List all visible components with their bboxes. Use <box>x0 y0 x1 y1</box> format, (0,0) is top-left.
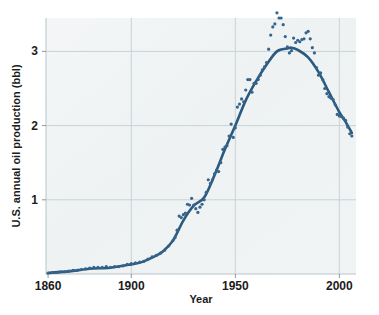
data-point <box>302 37 305 40</box>
data-point <box>190 197 193 200</box>
data-point <box>67 269 70 272</box>
data-point <box>63 270 66 273</box>
data-point <box>267 48 270 51</box>
data-point <box>225 144 228 147</box>
y-tick-label-3: 3 <box>31 44 38 58</box>
data-point <box>184 212 187 215</box>
data-point <box>146 258 149 261</box>
data-point <box>96 266 99 269</box>
data-point <box>71 269 74 272</box>
data-point <box>134 261 137 264</box>
data-point <box>259 74 262 77</box>
data-point <box>84 267 87 270</box>
data-point <box>205 191 208 194</box>
data-point <box>211 178 214 181</box>
data-point <box>271 25 274 28</box>
data-point <box>117 265 120 268</box>
data-point <box>151 255 154 258</box>
data-point <box>142 260 145 263</box>
data-point <box>325 92 328 95</box>
y-tick-label-2: 2 <box>31 119 38 133</box>
data-point <box>155 254 158 257</box>
data-point <box>167 244 170 247</box>
y-tick-label-1: 1 <box>31 193 38 207</box>
data-point <box>269 33 272 36</box>
data-point <box>80 268 83 271</box>
data-point <box>234 126 237 129</box>
data-point <box>265 61 268 64</box>
y-axis-title: U.S. annual oil production (bbl) <box>10 64 22 227</box>
data-point <box>236 105 239 108</box>
data-point <box>121 264 124 267</box>
data-point <box>350 134 353 137</box>
data-point <box>188 203 191 206</box>
data-point <box>207 178 210 181</box>
data-point <box>261 68 264 71</box>
chart-canvas: 1860190019502000 123 Year U.S. annual oi… <box>0 0 379 315</box>
data-point <box>55 271 58 274</box>
data-point <box>248 78 251 81</box>
x-tick-label-1860: 1860 <box>35 279 62 293</box>
data-point <box>319 71 322 74</box>
data-point <box>244 88 247 91</box>
data-point <box>198 206 201 209</box>
data-point <box>275 11 278 14</box>
data-point <box>273 22 276 25</box>
data-point <box>196 211 199 214</box>
data-point <box>59 270 62 273</box>
data-point <box>309 37 312 40</box>
data-point <box>321 78 324 81</box>
data-point <box>311 46 314 49</box>
data-point <box>323 87 326 90</box>
data-point <box>346 125 349 128</box>
data-point <box>192 203 195 206</box>
data-point <box>255 82 258 85</box>
data-point <box>92 266 95 269</box>
x-tick-labels: 1860190019502000 <box>35 279 353 293</box>
data-point <box>101 266 104 269</box>
data-point <box>290 49 293 52</box>
data-point <box>173 236 176 239</box>
x-tick-label-1950: 1950 <box>222 279 249 293</box>
data-point <box>263 65 266 68</box>
oil-production-figure: 1860190019502000 123 Year U.S. annual oi… <box>0 0 379 315</box>
data-point <box>315 66 318 69</box>
y-tick-labels: 123 <box>31 44 38 206</box>
data-point <box>250 91 253 94</box>
data-point <box>286 45 289 48</box>
data-point <box>292 36 295 39</box>
data-point <box>257 78 260 81</box>
x-tick-label-2000: 2000 <box>326 279 353 293</box>
data-point <box>242 100 245 103</box>
data-point <box>307 30 310 33</box>
y-tick-marks <box>42 51 46 199</box>
data-point <box>88 266 91 269</box>
data-point <box>109 266 112 269</box>
x-axis-title: Year <box>189 293 213 305</box>
data-point <box>230 123 233 126</box>
data-point <box>240 97 243 100</box>
data-point <box>313 51 316 54</box>
data-point <box>175 229 178 232</box>
data-point <box>282 23 285 26</box>
x-tick-marks <box>48 274 339 278</box>
data-point <box>227 134 230 137</box>
x-tick-label-1900: 1900 <box>118 279 145 293</box>
data-point <box>105 265 108 268</box>
data-point <box>130 262 133 265</box>
data-point <box>238 102 241 105</box>
data-point <box>194 207 197 210</box>
data-point <box>159 252 162 255</box>
data-point <box>126 263 129 266</box>
data-point <box>332 98 335 101</box>
data-point <box>180 216 183 219</box>
data-point <box>344 119 347 122</box>
data-point <box>138 261 141 264</box>
data-point <box>203 198 206 201</box>
data-point <box>217 170 220 173</box>
data-point <box>334 103 337 106</box>
data-point <box>171 239 174 242</box>
data-point <box>113 265 116 268</box>
data-point <box>209 182 212 185</box>
data-point <box>280 16 283 19</box>
